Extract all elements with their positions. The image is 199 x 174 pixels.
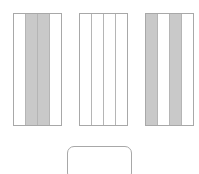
panel-1-column-2[interactable] bbox=[26, 14, 38, 125]
panel-3-column-2[interactable] bbox=[158, 14, 170, 125]
panel-3[interactable] bbox=[145, 13, 194, 126]
diagram-canvas bbox=[0, 0, 199, 174]
panel-3-column-4[interactable] bbox=[182, 14, 193, 125]
panel-2-column-2[interactable] bbox=[92, 14, 104, 125]
panel-1-column-1[interactable] bbox=[14, 14, 26, 125]
panel-2-column-3[interactable] bbox=[104, 14, 116, 125]
panel-2-column-4[interactable] bbox=[116, 14, 127, 125]
rounded-panel[interactable] bbox=[67, 146, 132, 174]
panel-3-column-1[interactable] bbox=[146, 14, 158, 125]
panel-1-column-4[interactable] bbox=[50, 14, 61, 125]
panel-1[interactable] bbox=[13, 13, 62, 126]
panel-1-column-3[interactable] bbox=[38, 14, 50, 125]
panel-3-column-3[interactable] bbox=[170, 14, 182, 125]
panel-2-column-1[interactable] bbox=[80, 14, 92, 125]
panel-2[interactable] bbox=[79, 13, 128, 126]
